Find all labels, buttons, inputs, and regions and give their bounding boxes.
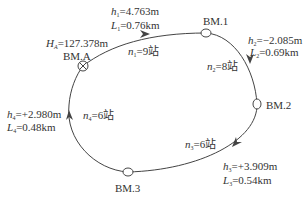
- value: =−2.085m: [257, 34, 303, 46]
- segment-1-n: n1=9站: [128, 45, 159, 61]
- start-height-value: =127.378m: [58, 37, 109, 49]
- segment-2-n: n2=8站: [207, 60, 238, 76]
- bm-a-label: BM.A: [63, 50, 91, 62]
- value: =4.763m: [120, 5, 160, 17]
- segment-1-L: L1=0.76km: [111, 19, 160, 35]
- h-var: H: [46, 37, 54, 49]
- bm-1-marker-icon: [201, 29, 211, 37]
- bm-2-label: BM.2: [266, 99, 291, 111]
- bm-3-marker-icon: [123, 168, 133, 176]
- value: =0.69km: [259, 46, 299, 58]
- leveling-route-loop: [69, 33, 257, 172]
- arrow-segment-4-icon: [66, 110, 73, 120]
- segment-4-n: n4=6站: [83, 109, 114, 125]
- bm-3-label: BM.3: [115, 182, 140, 194]
- bm-2-marker-icon: [253, 99, 261, 109]
- value: =+3.909m: [232, 160, 278, 172]
- value: =6站: [92, 109, 115, 121]
- value: =6站: [194, 138, 217, 150]
- value: =0.48km: [16, 121, 56, 133]
- bm-1-label: BM.1: [203, 15, 228, 27]
- value: =9站: [137, 45, 160, 57]
- value: =+2.980m: [16, 108, 62, 120]
- value: =0.76km: [120, 19, 160, 31]
- value: =8站: [216, 60, 239, 72]
- segment-3-L: L3=0.54km: [223, 174, 272, 190]
- segment-2-L: L2=0.69km: [250, 46, 299, 62]
- segment-4-L: L4=0.48km: [7, 121, 56, 137]
- segment-3-n: n3=6站: [185, 138, 216, 154]
- bm-a-marker-icon: [78, 61, 88, 71]
- value: =0.54km: [232, 174, 272, 186]
